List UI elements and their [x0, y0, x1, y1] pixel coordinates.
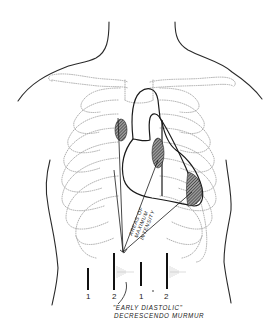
s1-bar-2	[140, 262, 142, 286]
phonocardiogram: 1 2 1 2	[86, 253, 186, 304]
caption-line1: "EARLY DIASTOLIC"	[113, 304, 183, 311]
s1-label-2: 1	[139, 292, 144, 301]
s2-label-2: 2	[164, 292, 169, 301]
right-clavicle	[150, 77, 235, 88]
caption: "EARLY DIASTOLIC" DECRESCENDO MURMUR	[113, 304, 204, 319]
murmur-wave-1	[117, 266, 134, 278]
neck-right-line	[175, 22, 262, 99]
left-flank-line	[46, 160, 58, 305]
right-ribs	[160, 88, 216, 245]
left-clavicle	[49, 74, 128, 88]
s2-bar-2	[166, 253, 168, 289]
s1-bar-1	[87, 268, 89, 290]
murmur-wave-2	[170, 266, 186, 278]
pointer-lines	[114, 118, 192, 253]
right-flank-line	[224, 160, 231, 303]
s1-label-1: 1	[86, 292, 91, 301]
auscultation-diagram: AREAS OF MAXIMUM INTENSITY 1 2 1	[0, 0, 279, 333]
aortic-area	[115, 119, 127, 141]
sternum	[125, 80, 153, 103]
murmur-pointer	[118, 282, 127, 304]
erb-point-area	[152, 138, 164, 168]
dot-marker	[152, 290, 154, 292]
s2-label-1: 2	[112, 292, 117, 301]
s2-bar-1	[113, 253, 115, 290]
areas-label: AREAS OF MAXIMUM INTENSITY	[127, 205, 156, 242]
neck-left-line	[18, 22, 109, 101]
left-ribs	[62, 88, 120, 245]
caption-line2: DECRESCENDO MURMUR	[114, 312, 204, 319]
apex-area	[187, 172, 203, 206]
